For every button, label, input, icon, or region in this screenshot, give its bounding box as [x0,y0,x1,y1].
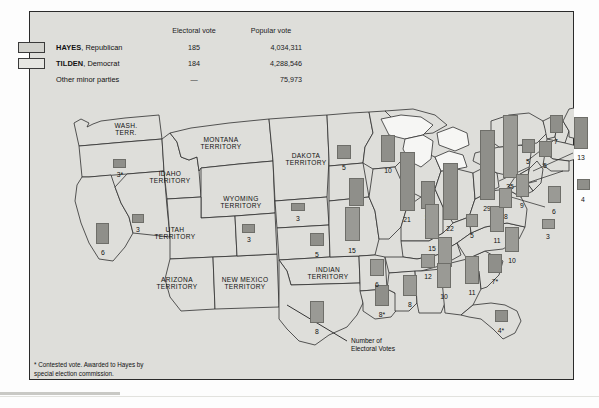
electoral-bar-new-jersey [516,174,529,197]
electoral-votes-indiana: 15 [428,245,436,252]
territory-label-7: NEW MEXICOTERRITORY [222,276,269,290]
electoral-votes-maine: 7 [554,138,558,145]
bottom-rule [0,392,120,395]
electoral-votes-north-carolina: 10 [508,257,516,264]
electoral-bar-west-virginia [466,214,478,227]
electoral-bar-south-carolina [488,254,502,273]
electoral-votes-rhode-island: 4 [581,196,585,203]
callout-line-2: Electoral Votes [351,345,395,353]
electoral-bar-florida [495,310,508,322]
legend-header-popular: Popular vote [240,26,302,35]
territory-label-line: MONTANA [200,136,241,143]
territory-label-line: ARIZONA [156,276,197,283]
electoral-bar-mississippi [403,275,417,296]
legend-popular-value-1: 4,288,546 [240,59,302,68]
electoral-bar-tennessee [421,254,435,268]
territory-label-line: TERRITORY [285,159,326,166]
electoral-votes-florida: 4* [498,327,504,334]
territory-label-line: TERRITORY [307,273,348,280]
electoral-votes-south-carolina: 7* [492,278,498,285]
electoral-bar-missouri [345,207,360,241]
electoral-bar-illinois [400,152,415,211]
electoral-votes-new-jersey: 9 [520,202,524,209]
territory-label-line: TERRITORY [200,143,241,150]
electoral-bar-massachusetts [574,117,588,149]
electoral-votes-minnesota: 5 [342,164,346,171]
legend-header-electoral: Electoral vote [166,26,222,35]
electoral-votes-virginia: 11 [493,237,500,244]
territory-label-line: IDAHO [149,170,190,177]
legend-swatch-hayes [18,42,45,53]
electoral-bar-virginia [490,206,504,232]
legend-popular-value-0: 4,034,311 [240,43,302,52]
territory-label-1: MONTANATERRITORY [200,136,241,150]
legend-candidate-label-1: TILDEN, Democrat [56,59,119,68]
electoral-votes-tennessee: 12 [424,273,432,280]
territory-label-0: WASH.TERR. [114,122,137,136]
territory-label-line: TERRITORY [156,283,197,290]
legend-candidate-name-0: HAYES [56,43,81,52]
electoral-votes-vermont: 5 [526,158,530,165]
electoral-votes-wisconsin: 10 [384,167,392,174]
electoral-bar-new-hampshire [539,141,552,157]
election-map-figure: WASH.TERR.MONTANATERRITORYIDAHOTERRITORY… [0,0,599,408]
electoral-votes-nebraska: 3 [296,215,300,222]
electoral-votes-alabama: 10 [440,293,448,300]
territory-label-4: DAKOTATERRITORY [285,152,326,166]
electoral-votes-delaware: 3 [546,233,550,240]
territory-label-5: UTAHTERRITORY [154,226,195,240]
electoral-bar-maine [550,115,563,133]
electoral-bar-rhode-island [577,179,590,190]
electoral-votes-colorado: 3 [247,236,251,243]
territory-label-line: TERRITORY [222,283,269,290]
electoral-votes-mississippi: 8 [408,301,412,308]
electoral-bar-nevada [132,214,144,223]
territory-label-line: TERRITORY [154,233,195,240]
electoral-votes-nevada: 3 [136,226,140,233]
electoral-bar-texas [310,301,324,323]
legend-candidate-name-1: TILDEN [56,59,83,68]
legend-electoral-value-2: — [171,75,217,84]
electoral-bar-ohio [443,163,458,220]
legend-candidate-label-2: Other minor parties [56,75,119,84]
electoral-votes-louisiana: 8* [379,311,385,318]
electoral-votes-oregon: 3* [117,171,123,178]
territory-label-line: WASH. [114,122,137,129]
territory-label-line: NEW MEXICO [222,276,269,283]
territory-label-line: UTAH [154,226,195,233]
electoral-bar-new-york [503,115,518,178]
electoral-bar-north-carolina [505,227,519,252]
territory-label-line: INDIAN [307,266,348,273]
electoral-votes-texas: 8 [315,328,319,335]
legend-popular-value-2: 75,973 [240,75,302,84]
electoral-votes-west-virginia: 5 [470,232,474,239]
territory-label-8: INDIANTERRITORY [307,266,348,280]
electoral-bar-california [96,223,109,244]
territory-label-line: TERRITORY [149,177,190,184]
legend-candidate-label-0: HAYES, Republican [56,43,122,52]
electoral-bar-pennsylvania [480,130,495,200]
electoral-votes-connecticut: 6 [552,208,556,215]
electoral-bar-connecticut [548,186,561,203]
territory-label-line: TERRITORY [220,202,261,209]
territory-label-2: IDAHOTERRITORY [149,170,190,184]
footnote-contested-vote: * Contested vote. Awarded to Hayes by sp… [34,360,143,378]
electoral-votes-missouri: 15 [348,247,356,254]
electoral-bar-kansas [310,233,324,246]
electoral-votes-maryland: 8 [504,213,508,220]
electoral-votes-illinois: 21 [403,216,411,223]
callout-number-of-electoral-votes: Number of Electoral Votes [351,337,395,354]
electoral-bar-georgia [465,256,479,284]
territory-label-6: ARIZONATERRITORY [156,276,197,290]
electoral-votes-arkansas: 6 [375,281,379,288]
electoral-bar-indiana [425,204,439,239]
electoral-votes-kansas: 5 [315,251,319,258]
legend-electoral-value-1: 184 [171,59,217,68]
electoral-bar-maryland [499,188,512,208]
bottom-rule-thin [0,396,599,397]
electoral-votes-california: 6 [101,249,105,256]
electoral-bar-nebraska [291,203,305,211]
electoral-votes-ohio: 22 [446,225,454,232]
territory-label-line: TERR. [114,129,137,136]
electoral-votes-new-hampshire: 5 [543,162,547,169]
